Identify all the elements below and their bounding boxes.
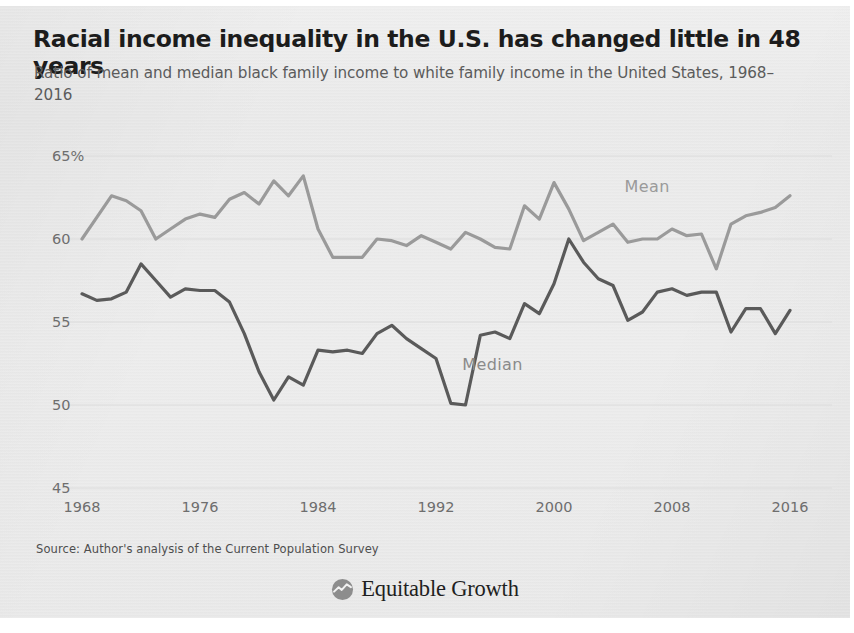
y-tick-label: 65% (52, 148, 84, 164)
chart-circle-icon (331, 578, 354, 601)
line-chart: 4550556065% 1968197619841992200020082016 (0, 6, 850, 618)
chart-page: Racial income inequality in the U.S. has… (0, 0, 854, 633)
y-tick-label: 45 (52, 480, 70, 496)
source-note: Source: Author's analysis of the Current… (36, 542, 379, 556)
y-tick-label: 60 (52, 231, 70, 247)
y-tick-label: 50 (52, 397, 70, 413)
x-tick-label: 1984 (300, 499, 337, 515)
series-lines (82, 176, 790, 405)
series-line-mean (82, 176, 790, 269)
x-tick-label: 1976 (182, 499, 219, 515)
x-tick-label: 2016 (772, 499, 809, 515)
x-axis-tick-labels: 1968197619841992200020082016 (64, 499, 809, 515)
chart-plot-area: 4550556065% 1968197619841992200020082016… (0, 6, 850, 618)
x-tick-label: 2008 (654, 499, 691, 515)
series-label-median: Median (462, 355, 523, 374)
gridlines (60, 156, 832, 488)
x-tick-label: 2000 (536, 499, 573, 515)
paper-background: Racial income inequality in the U.S. has… (0, 6, 850, 618)
y-tick-label: 55 (52, 314, 70, 330)
brand-name: Equitable Growth (361, 578, 518, 601)
x-tick-label: 1968 (64, 499, 101, 515)
brand-footer: Equitable Growth (0, 578, 850, 601)
series-label-mean: Mean (625, 177, 670, 196)
x-tick-label: 1992 (418, 499, 455, 515)
